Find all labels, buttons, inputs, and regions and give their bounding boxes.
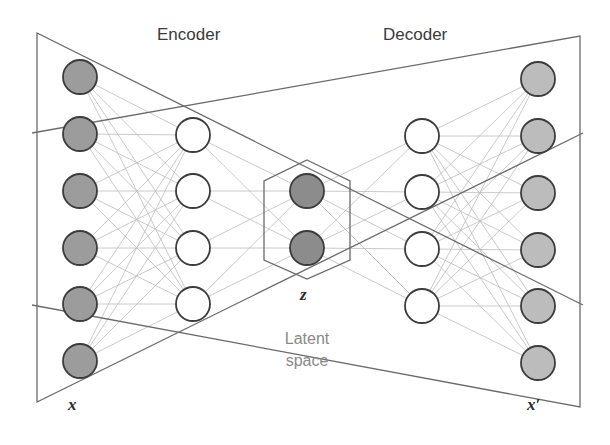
output-node-2 [521, 119, 555, 153]
output-label-x-prime: x′ [527, 395, 540, 415]
output-node-3 [521, 176, 555, 210]
input-node-2 [63, 117, 97, 151]
input-node-3 [63, 174, 97, 208]
connection-latent-to-decoder-hidden [307, 192, 422, 248]
output-node-4 [521, 233, 555, 267]
latent-node-1 [290, 174, 324, 208]
decoder-hidden-node-1 [405, 119, 439, 153]
connection-latent-to-decoder-hidden [307, 248, 422, 306]
connection-encoder-hidden-to-latent [193, 248, 307, 304]
encoder-hidden-node-4 [176, 287, 210, 321]
decoder-title: Decoder [383, 25, 447, 45]
input-node-6 [63, 344, 97, 378]
output-node-5 [521, 289, 555, 323]
encoder-hidden-node-1 [176, 118, 210, 152]
input-label-x: x [68, 395, 77, 415]
connection-latent-to-decoder-hidden [307, 136, 422, 191]
decoder-hidden-node-4 [405, 289, 439, 323]
connection-input-to-encoder-hidden [80, 191, 193, 361]
latent-caption-line1: Latent [262, 328, 352, 350]
connection-decoder-hidden-to-output [422, 306, 538, 363]
latent-caption-line2: space [262, 350, 352, 372]
input-node-5 [63, 287, 97, 321]
decoder-hidden-node-2 [405, 175, 439, 209]
output-node-6 [521, 346, 555, 380]
decoder-hidden-node-3 [405, 232, 439, 266]
latent-space-caption: Latent space [262, 328, 352, 372]
output-node-1 [521, 62, 555, 96]
connections [80, 77, 538, 363]
connection-input-to-encoder-hidden [80, 77, 193, 135]
connection-decoder-hidden-to-output [422, 79, 538, 136]
latent-node-2 [290, 231, 324, 265]
input-node-1 [63, 60, 97, 94]
latent-label-z: z [300, 285, 307, 305]
encoder-hidden-node-3 [176, 231, 210, 265]
autoencoder-diagram [0, 0, 610, 445]
encoder-title: Encoder [157, 25, 220, 45]
encoder-hidden-node-2 [176, 174, 210, 208]
input-node-4 [63, 231, 97, 265]
connection-encoder-hidden-to-latent [193, 135, 307, 191]
